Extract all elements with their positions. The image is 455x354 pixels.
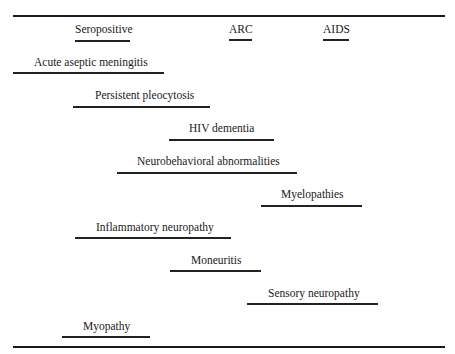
disorder-label: Sensory neuropathy bbox=[268, 287, 360, 300]
disorder-span-bar bbox=[261, 205, 362, 207]
disorder-span-bar bbox=[247, 303, 378, 305]
disorder-span-bar bbox=[13, 72, 164, 74]
stage-seropositive-label: Seropositive bbox=[75, 23, 133, 36]
disorder-label: Neurobehavioral abnormalities bbox=[137, 155, 280, 168]
bottom-rule bbox=[13, 346, 445, 348]
disorder-label: HIV dementia bbox=[189, 122, 254, 135]
disorder-span-bar bbox=[169, 139, 274, 141]
stage-arc-label: ARC bbox=[229, 23, 253, 36]
stage-seropositive-underline bbox=[75, 40, 130, 42]
stage-aids-underline bbox=[323, 39, 349, 41]
stage-aids-label: AIDS bbox=[323, 23, 350, 36]
disorder-span-bar bbox=[73, 106, 210, 108]
disorder-label: Moneuritis bbox=[191, 254, 241, 267]
disorder-span-bar bbox=[117, 172, 297, 174]
disorder-span-bar bbox=[62, 336, 150, 338]
disorder-span-bar bbox=[75, 237, 231, 239]
disorder-label: Acute aseptic meningitis bbox=[34, 56, 148, 69]
disorder-label: Myopathy bbox=[83, 320, 130, 333]
disorder-label: Persistent pleocytosis bbox=[95, 89, 194, 102]
disorder-span-bar bbox=[170, 270, 261, 272]
disorder-label: Inflammatory neuropathy bbox=[96, 221, 214, 234]
stage-arc-underline bbox=[229, 39, 252, 41]
disorder-label: Myelopathies bbox=[281, 188, 344, 201]
top-rule bbox=[13, 15, 445, 17]
